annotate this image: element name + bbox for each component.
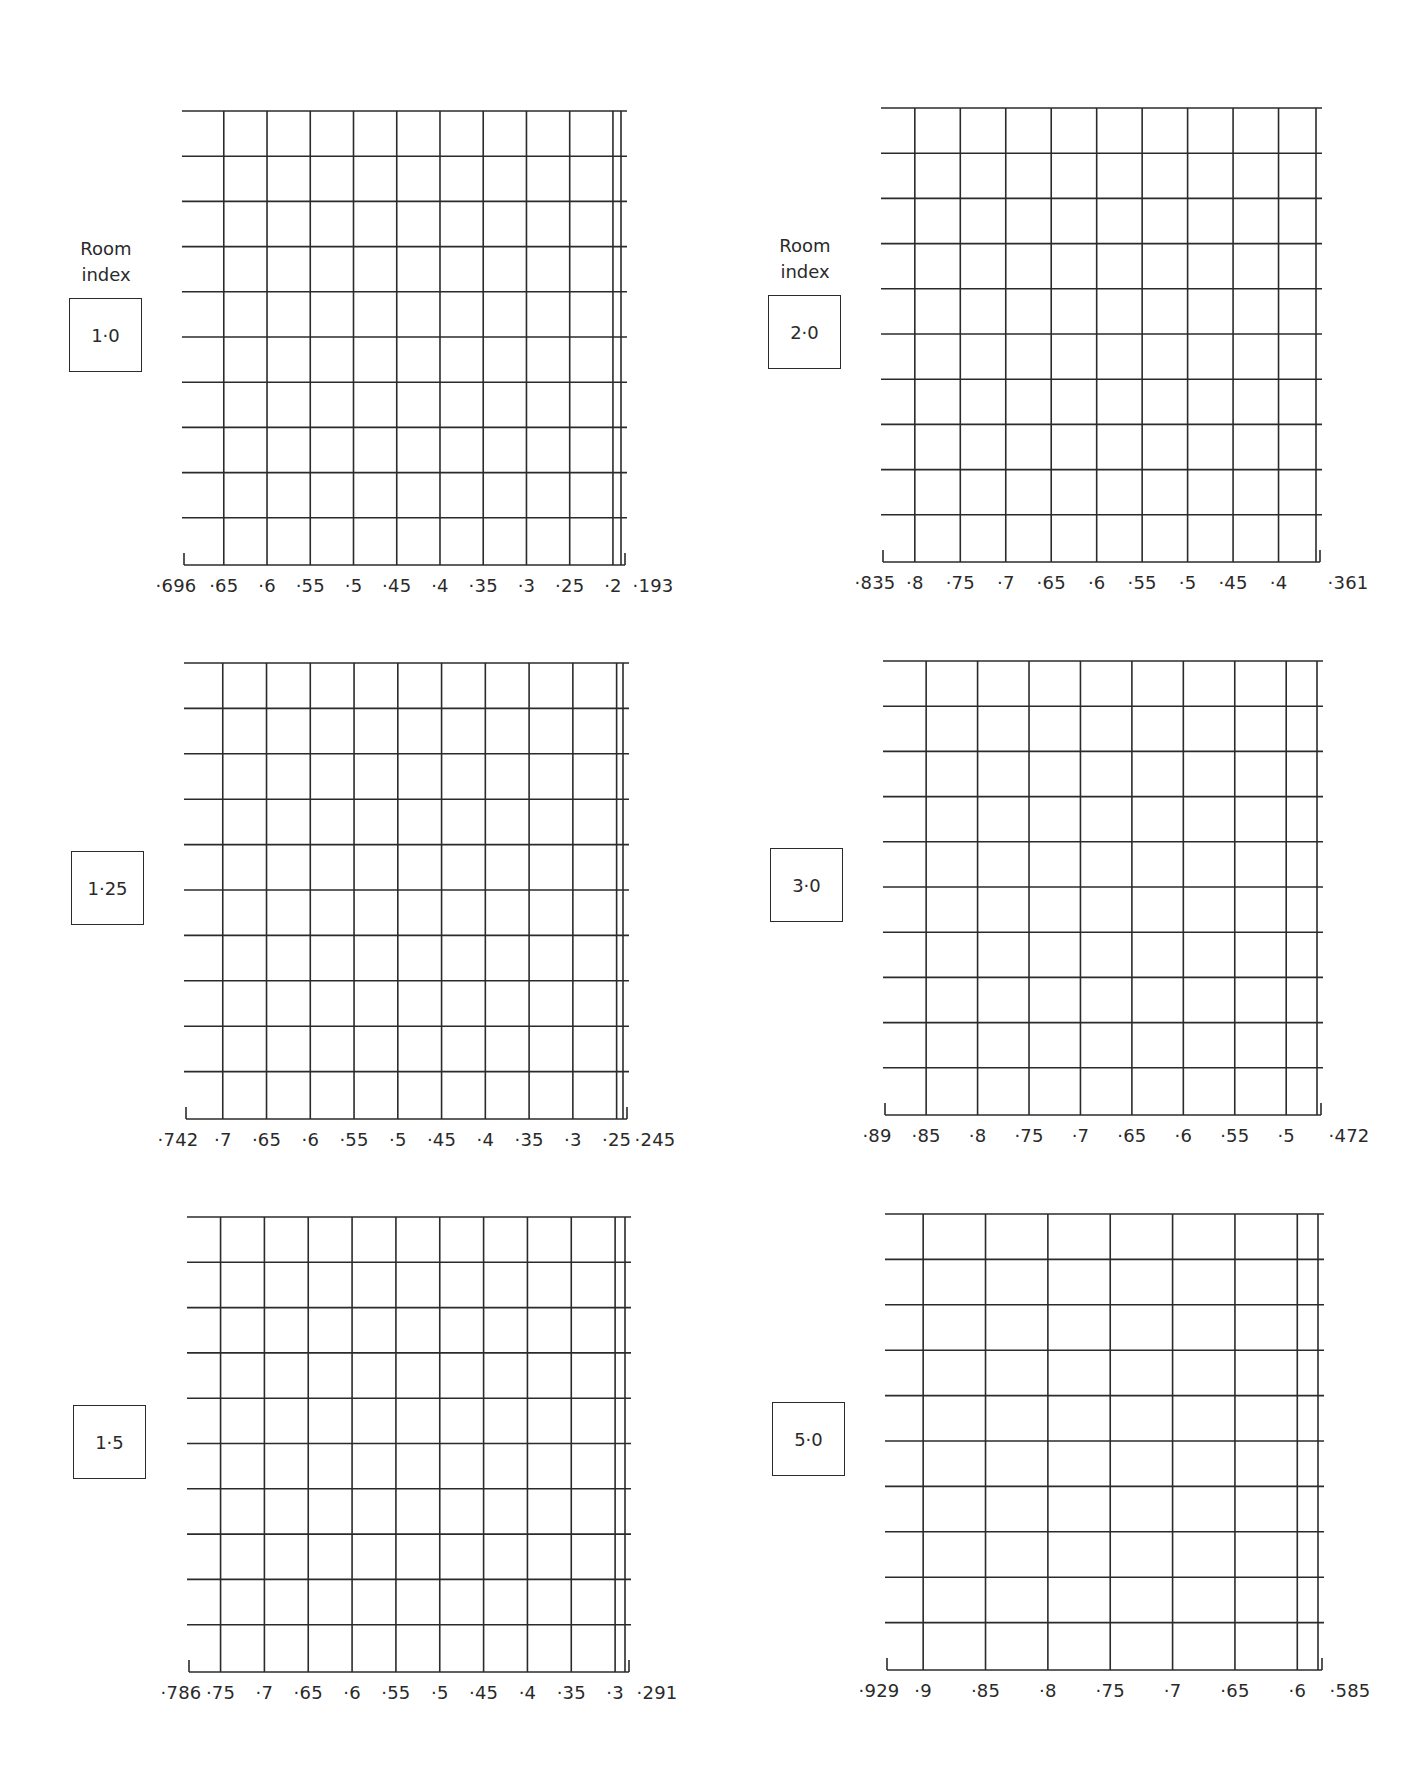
x-tick-label: ·7 [1164, 1680, 1182, 1701]
x-tick-label: ·85 [971, 1680, 1000, 1701]
x-tick-label: ·6 [1288, 1680, 1306, 1701]
grid-lines [0, 0, 1426, 1785]
x-tick-label: ·929 [859, 1680, 900, 1701]
x-tick-label: ·8 [1039, 1680, 1057, 1701]
x-tick-label: ·65 [1220, 1680, 1249, 1701]
x-tick-label: ·9 [914, 1680, 932, 1701]
x-tick-label: ·75 [1096, 1680, 1125, 1701]
x-tick-label: ·585 [1330, 1680, 1371, 1701]
